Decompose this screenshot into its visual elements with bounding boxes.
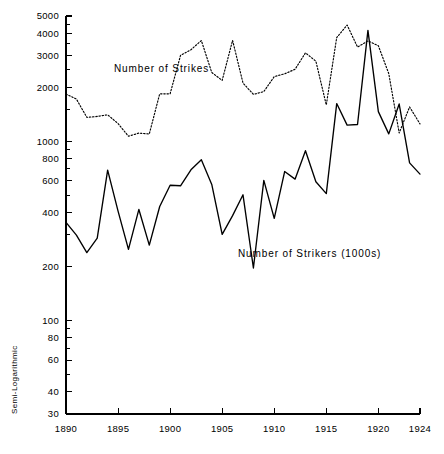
chart-container: 3040608010020040060080010002000300040005… xyxy=(0,0,444,454)
x-axis-tick-labels: 18901895190019051910191519201924 xyxy=(55,423,431,434)
y-tick-label: 80 xyxy=(48,332,59,343)
y-tick-label: 2000 xyxy=(37,82,59,93)
annotation-number-of-strikes: Number of Strikes xyxy=(114,63,209,74)
y-tick-label: 30 xyxy=(48,408,59,419)
data-series-group xyxy=(66,25,420,268)
x-tick-label: 1920 xyxy=(367,423,389,434)
y-tick-label: 1000 xyxy=(37,136,59,147)
y-tick-label: 100 xyxy=(42,315,59,326)
x-tick-label: 1910 xyxy=(263,423,285,434)
y-tick-label: 5000 xyxy=(37,10,59,21)
x-axis: 18901895190019051910191519201924 xyxy=(55,408,431,434)
y-axis: 3040608010020040060080010002000300040005… xyxy=(37,10,72,419)
y-tick-label: 3000 xyxy=(37,50,59,61)
annotation-number-of-strikers: Number of Strikers (1000s) xyxy=(238,248,381,259)
y-tick-label: 4000 xyxy=(37,28,59,39)
x-axis-ticks xyxy=(66,408,420,414)
y-axis-title: Semi-Logarithmic xyxy=(10,345,19,414)
x-tick-label: 1924 xyxy=(409,423,431,434)
x-tick-label: 1915 xyxy=(315,423,337,434)
y-tick-label: 800 xyxy=(42,153,59,164)
y-tick-label: 200 xyxy=(42,261,59,272)
y-tick-label: 40 xyxy=(48,386,59,397)
y-tick-label: 400 xyxy=(42,207,59,218)
y-tick-label: 600 xyxy=(42,175,59,186)
y-axis-ticks xyxy=(66,16,72,414)
x-tick-label: 1900 xyxy=(159,423,181,434)
y-axis-tick-labels: 3040608010020040060080010002000300040005… xyxy=(37,10,59,419)
y-tick-label: 60 xyxy=(48,354,59,365)
strikes-line-chart: 3040608010020040060080010002000300040005… xyxy=(0,0,444,454)
x-tick-label: 1890 xyxy=(55,423,77,434)
x-tick-label: 1905 xyxy=(211,423,233,434)
x-tick-label: 1895 xyxy=(107,423,129,434)
